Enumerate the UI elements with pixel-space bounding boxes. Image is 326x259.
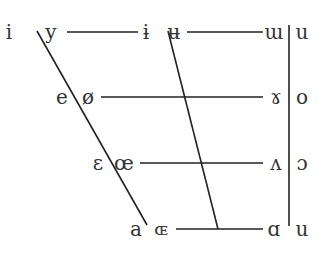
vowel-close-front-unrounded: i xyxy=(6,22,12,42)
vowel-close-back-rounded: u xyxy=(296,22,309,42)
front-diagonal xyxy=(37,31,147,225)
vowel-close-mid-front-rounded: ø xyxy=(82,87,94,107)
vowel-open-mid-back-rounded: ɔ xyxy=(296,153,307,173)
vowel-close-mid-back-rounded: o xyxy=(296,87,308,107)
vowel-open-back-rounded: u xyxy=(296,219,309,239)
vowel-open-back-unrounded: ɑ xyxy=(268,219,281,239)
vowel-close-mid-back-unrounded: ɤ xyxy=(270,87,281,107)
central-diagonal xyxy=(168,31,218,229)
vowel-close-front-rounded: y xyxy=(45,22,56,42)
vowel-open-front-rounded: ɶ xyxy=(154,221,167,238)
vowel-close-central-unrounded: ɨ xyxy=(143,22,149,42)
vowel-open-mid-front-rounded: œ xyxy=(114,153,134,173)
vowel-close-central-rounded: ʉ xyxy=(168,22,181,42)
vowel-close-mid-front-unrounded: e xyxy=(56,87,68,107)
vowel-close-back-unrounded: ɯ xyxy=(265,22,284,42)
vowel-open-front-unrounded: a xyxy=(130,219,142,239)
vowel-open-mid-back-unrounded: ʌ xyxy=(270,153,281,173)
vowel-open-mid-front-unrounded: ɛ xyxy=(93,153,103,173)
